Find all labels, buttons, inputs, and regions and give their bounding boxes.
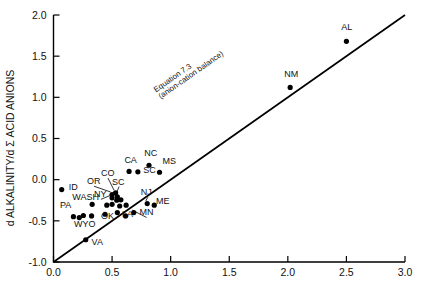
point-label: SC <box>112 177 125 187</box>
point-label: AL <box>341 22 352 32</box>
y-tick-label: -0.5 <box>28 215 46 227</box>
equation-7-3-line <box>54 15 406 262</box>
data-point <box>90 202 95 207</box>
data-point-labels: IDPAWYOWASHORCONYSCOKCASCNCMSNJMEMNLAVAN… <box>60 22 352 247</box>
x-tick-label: 3.0 <box>398 266 413 278</box>
data-point <box>83 237 88 242</box>
data-point <box>89 213 94 218</box>
point-label: NJ <box>141 187 152 197</box>
regression-line <box>54 15 406 262</box>
data-point <box>109 202 114 207</box>
point-label: MS <box>162 156 176 166</box>
point-label: WYO <box>74 219 96 229</box>
point-label: NY <box>94 189 107 199</box>
data-point <box>288 85 293 90</box>
point-label: OR <box>87 176 101 186</box>
y-tick-label: 0.0 <box>32 173 47 185</box>
point-label: LA <box>122 209 133 219</box>
data-point <box>124 203 129 208</box>
equation-label-line2: (anion-cation balance) <box>157 49 226 101</box>
point-label: NC <box>144 148 157 158</box>
plot-area: -1.0-0.50.00.51.01.52.00.00.51.01.52.02.… <box>0 0 421 299</box>
y-tick-label: 1.0 <box>32 91 47 103</box>
data-point <box>126 169 131 174</box>
data-point <box>117 203 122 208</box>
y-tick-label: 1.5 <box>32 50 47 62</box>
y-tick-label: 2.0 <box>32 9 47 21</box>
data-point <box>157 170 162 175</box>
y-axis-title: d ALKALINITY/d Σ ACID ANIONS <box>4 70 16 226</box>
x-tick-label: 0.0 <box>46 266 61 278</box>
data-point <box>104 203 109 208</box>
point-label: NM <box>284 69 298 79</box>
data-point <box>81 213 86 218</box>
x-tick-label: 2.5 <box>339 266 354 278</box>
y-axis-title-text: d ALKALINITY/d Σ ACID ANIONS <box>4 70 16 226</box>
data-point <box>59 187 64 192</box>
x-tick-label: 0.5 <box>105 266 120 278</box>
data-point <box>135 169 140 174</box>
equation-annotation: Equation 7.3(anion-cation balance) <box>152 42 225 100</box>
point-label: OK <box>101 211 114 221</box>
point-label: MN <box>140 207 154 217</box>
equation-label-rotated: Equation 7.3(anion-cation balance) <box>152 42 225 100</box>
data-point <box>118 197 123 202</box>
scatter-chart-figure: -1.0-0.50.00.51.01.52.00.00.51.01.52.02.… <box>0 0 421 299</box>
point-label: SC <box>143 165 156 175</box>
data-point <box>344 39 349 44</box>
point-label: CA <box>124 155 137 165</box>
point-label: PA <box>60 200 71 210</box>
data-point <box>115 210 120 215</box>
x-tick-label: 1.0 <box>163 266 178 278</box>
point-label: ME <box>156 196 170 206</box>
data-point <box>145 201 150 206</box>
point-label: VA <box>92 237 103 247</box>
x-tick-label: 1.5 <box>222 266 237 278</box>
x-tick-label: 2.0 <box>281 266 296 278</box>
data-point <box>109 195 114 200</box>
point-label: ID <box>69 182 79 192</box>
y-tick-label: 0.5 <box>32 132 47 144</box>
y-tick-label: -1.0 <box>28 256 46 268</box>
